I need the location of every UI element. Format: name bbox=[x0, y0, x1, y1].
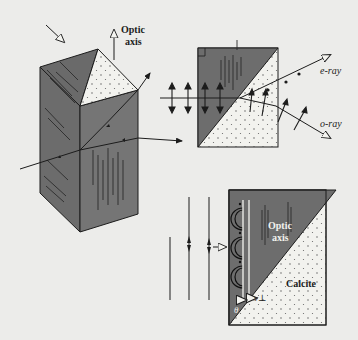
e-ray-label: e-ray bbox=[320, 65, 341, 76]
theta-angle-label: θ bbox=[234, 305, 238, 316]
v-parallel-label: v∥ bbox=[263, 282, 271, 293]
ray-splitting-panel bbox=[160, 40, 330, 147]
wavelet-optic-axis-label-line1: Optic bbox=[268, 220, 292, 231]
figure-drawing bbox=[0, 0, 358, 340]
wavelet-optic-axis-label-line2: axis bbox=[272, 232, 289, 243]
huygens-wavelet-panel bbox=[170, 190, 336, 325]
v-perp-label: v⊥ bbox=[254, 293, 266, 304]
optic-axis-label-line2: axis bbox=[125, 36, 142, 47]
optic-axis-label-line1: Optic bbox=[121, 24, 145, 35]
calcite-birefringence-figure: Optic axis e-ray o-ray Optic axis Calcit… bbox=[0, 0, 358, 340]
o-ray-label: o-ray bbox=[320, 118, 342, 129]
calcite-crystal-block bbox=[20, 25, 182, 232]
calcite-label: Calcite bbox=[286, 278, 316, 289]
